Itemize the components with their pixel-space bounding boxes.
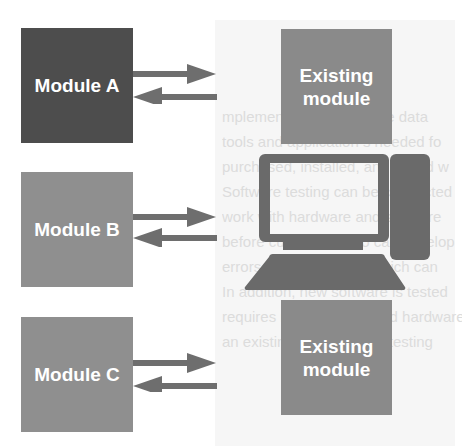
bidirectional-arrow-a <box>133 64 217 104</box>
existing-module-label-line2: module <box>303 88 371 109</box>
bidirectional-arrow-c <box>133 352 217 392</box>
existing-module-bottom-box: Existing module <box>281 300 392 415</box>
existing-module-label-line1: Existing <box>300 336 374 357</box>
module-c-box: Module C <box>21 317 133 432</box>
module-b-label: Module B <box>34 218 120 241</box>
existing-module-label-line1: Existing <box>300 65 374 86</box>
module-c-label: Module C <box>34 363 120 386</box>
module-b-box: Module B <box>21 172 133 287</box>
module-a-box: Module A <box>21 28 133 143</box>
module-a-label: Module A <box>35 74 120 97</box>
existing-module-label-line2: module <box>303 359 371 380</box>
desktop-computer-icon <box>243 152 433 290</box>
existing-module-top-box: Existing module <box>281 29 392 144</box>
bidirectional-arrow-b <box>133 207 217 247</box>
